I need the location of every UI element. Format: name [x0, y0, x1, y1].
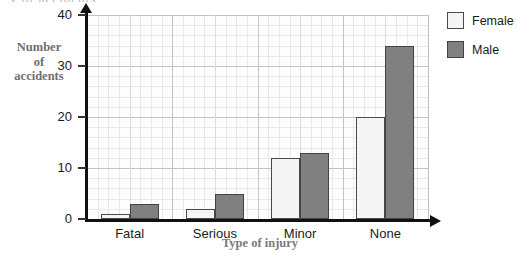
- bar-minor-female: [271, 158, 300, 219]
- legend-swatch-female-icon: [447, 12, 464, 29]
- legend-label-male: Male: [472, 43, 499, 57]
- legend-item-male: Male: [447, 41, 514, 58]
- legend: Female Male: [447, 12, 514, 70]
- x-axis-label-none: None: [340, 226, 430, 241]
- y-axis-tick: [78, 218, 86, 220]
- bar-serious-female: [186, 209, 215, 219]
- x-axis-line: [85, 219, 433, 222]
- bar-chart-figure: y of accidents Number of accidents 01020…: [0, 0, 517, 257]
- y-axis-tick-label: 0: [36, 211, 72, 226]
- x-axis-title: Type of injury: [170, 236, 350, 251]
- y-axis-tick: [78, 14, 86, 16]
- legend-label-female: Female: [472, 14, 514, 28]
- y-axis-tick: [78, 116, 86, 118]
- bar-none-male: [385, 46, 414, 219]
- gridline-v-major: [428, 15, 429, 219]
- legend-swatch-male-icon: [447, 41, 464, 58]
- clipped-top-text: y of accidents: [10, 0, 96, 2]
- bar-minor-male: [300, 153, 329, 219]
- y-axis-tick-label: 10: [36, 160, 72, 175]
- x-axis-arrowhead-icon: [430, 215, 441, 227]
- bar-serious-male: [215, 194, 244, 220]
- y-axis-arrowhead-icon: [80, 3, 92, 13]
- x-axis-label-fatal: Fatal: [85, 226, 175, 241]
- bar-group-container: [87, 15, 428, 219]
- y-axis-tick-label: 40: [36, 7, 72, 22]
- plot-area: [87, 15, 428, 219]
- y-axis-tick-label: 30: [36, 58, 72, 73]
- bar-none-female: [356, 117, 385, 219]
- y-axis-tick: [78, 167, 86, 169]
- bar-fatal-male: [130, 204, 159, 219]
- y-axis-title-line-1: Number: [2, 40, 76, 55]
- y-axis-tick-label: 20: [36, 109, 72, 124]
- legend-item-female: Female: [447, 12, 514, 29]
- gridline-v-minor: [428, 15, 429, 219]
- y-axis-tick: [78, 65, 86, 67]
